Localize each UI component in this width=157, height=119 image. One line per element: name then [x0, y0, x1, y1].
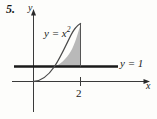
line-label: y = 1 — [120, 58, 143, 69]
x-axis-label: x — [146, 81, 150, 91]
curve-label-base: y = x — [44, 27, 67, 39]
curve-label-exponent: 2 — [67, 25, 71, 34]
x-tick-label-2: 2 — [76, 88, 82, 99]
y-axis-label: y — [28, 3, 32, 13]
figure-container: 5. y = x2 y = 1 y x 2 — [0, 0, 157, 119]
curve-label: y = x2 — [44, 26, 70, 39]
y-axis — [31, 9, 36, 112]
